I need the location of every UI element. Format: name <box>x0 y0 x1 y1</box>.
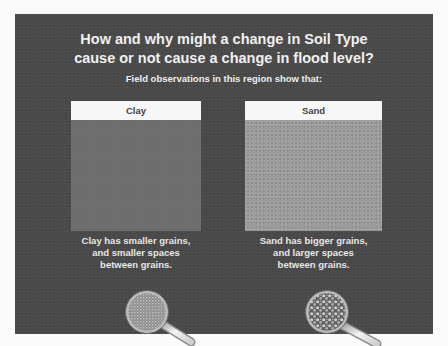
sand-caption: Sand has bigger grains, and larger space… <box>215 235 412 271</box>
sand-panel-header: Sand <box>245 101 382 120</box>
magnifying-glass-fine-grains-icon <box>107 276 207 346</box>
clay-caption-line-3: between grains. <box>41 259 231 271</box>
clay-texture-swatch <box>71 120 201 231</box>
sand-caption-line-3: between grains. <box>215 259 412 271</box>
clay-panel-header: Clay <box>71 101 201 120</box>
clay-panel: Clay <box>71 101 201 231</box>
clay-caption-line-1: Clay has smaller grains, <box>41 235 231 247</box>
sand-texture-swatch <box>245 120 382 231</box>
slide-subtitle: Field observations in this region show t… <box>15 73 433 84</box>
sand-caption-line-2: and larger spaces <box>215 247 412 259</box>
slide-title: How and why might a change in Soil Type … <box>15 30 433 68</box>
sand-panel: Sand <box>245 101 382 231</box>
title-line-2: cause or not cause a change in flood lev… <box>15 49 433 68</box>
slide: How and why might a change in Soil Type … <box>15 14 433 334</box>
sand-caption-line-1: Sand has bigger grains, <box>215 235 412 247</box>
title-line-1: How and why might a change in Soil Type <box>15 30 433 49</box>
clay-caption-line-2: and smaller spaces <box>41 247 231 259</box>
clay-caption: Clay has smaller grains, and smaller spa… <box>41 235 231 271</box>
magnifying-glass-coarse-grains-icon <box>286 276 386 346</box>
